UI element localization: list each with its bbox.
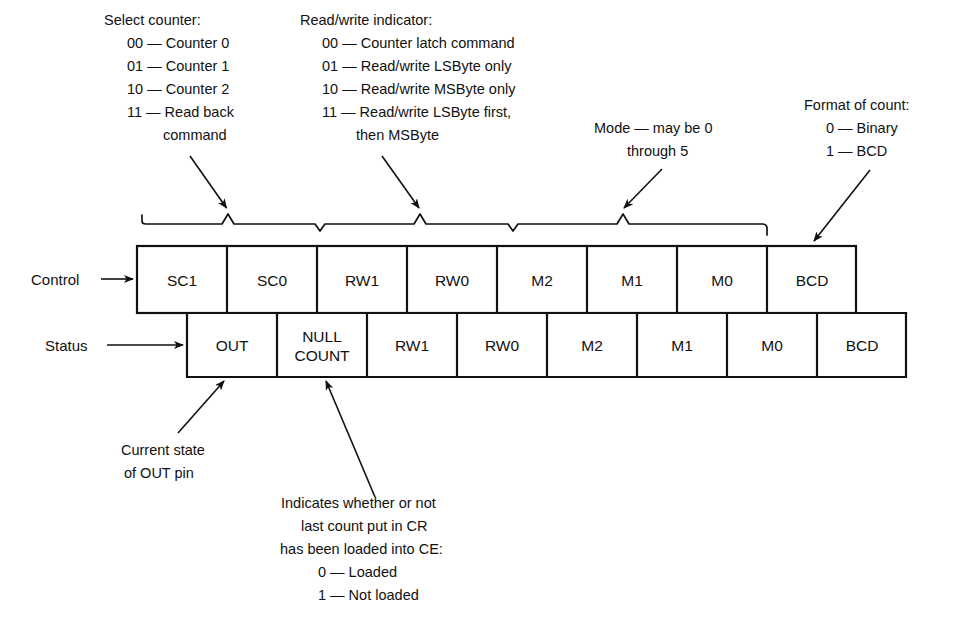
status-cell-out: OUT: [216, 337, 249, 354]
status-row-label-group: Status: [45, 337, 183, 354]
read-write-line-4: then MSByte: [356, 127, 439, 143]
status-row-label: Status: [45, 337, 88, 354]
format-of-count-heading: Format of count:: [804, 97, 910, 113]
select-counter-heading: Select counter:: [104, 12, 201, 28]
annotation-mode: Mode — may be 0 through 5: [594, 120, 712, 159]
select-counter-line-3: 11 — Read back: [127, 104, 235, 120]
out-pin-line-0: Current state: [121, 442, 205, 458]
control-cell-bcd: BCD: [796, 272, 829, 289]
read-write-line-0: 00 — Counter latch command: [322, 35, 515, 51]
status-cell-null: NULL: [302, 328, 342, 345]
status-cell-m0: M0: [761, 337, 783, 354]
status-cell-m2: M2: [581, 337, 603, 354]
out-pin-line-1: of OUT pin: [124, 465, 194, 481]
status-cell-count: COUNT: [294, 347, 350, 364]
status-register-row: OUT NULL COUNT RW1 RW0 M2 M1 M0 BCD: [187, 313, 906, 377]
read-write-line-3: 11 — Read/write LSByte first,: [322, 104, 511, 120]
status-cell-bcd: BCD: [846, 337, 879, 354]
annotation-out-pin: Current state of OUT pin: [121, 381, 224, 481]
field-grouping-brace: [142, 214, 767, 235]
control-row-label-group: Control: [31, 271, 133, 288]
control-cell-rw0: RW0: [435, 272, 470, 289]
select-counter-line-1: 01 — Counter 1: [127, 58, 229, 74]
control-cell-m0: M0: [711, 272, 733, 289]
annotation-format-of-count: Format of count: 0 — Binary 1 — BCD: [804, 97, 910, 159]
null-count-line-2: has been loaded into CE:: [280, 541, 443, 557]
null-count-line-1: last count put in CR: [301, 518, 428, 534]
null-count-line-0: Indicates whether or not: [281, 495, 436, 511]
read-write-line-2: 10 — Read/write MSByte only: [322, 81, 516, 97]
null-count-line-3: 0 — Loaded: [318, 564, 397, 580]
read-write-line-1: 01 — Read/write LSByte only: [322, 58, 512, 74]
control-cell-rw1: RW1: [345, 272, 379, 289]
format-of-count-line-1: 1 — BCD: [826, 143, 887, 159]
select-counter-line-0: 00 — Counter 0: [127, 35, 229, 51]
control-register-row: SC1 SC0 RW1 RW0 M2 M1 M0 BCD: [137, 246, 856, 313]
null-count-line-4: 1 — Not loaded: [318, 587, 419, 603]
select-counter-line-2: 10 — Counter 2: [127, 81, 229, 97]
leader-format-of-count: [814, 170, 870, 241]
control-cell-m1: M1: [621, 272, 643, 289]
leader-select-counter: [190, 156, 227, 208]
annotation-null-count: Indicates whether or not last count put …: [280, 381, 443, 603]
leader-mode: [624, 169, 662, 208]
select-counter-line-4: command: [163, 127, 227, 143]
register-format-diagram: Select counter: 00 — Counter 0 01 — Coun…: [0, 0, 968, 617]
mode-line-1: through 5: [627, 143, 688, 159]
control-row-label: Control: [31, 271, 79, 288]
status-cell-rw0: RW0: [485, 337, 520, 354]
annotation-read-write-indicator: Read/write indicator: 00 — Counter latch…: [300, 12, 516, 143]
annotation-select-counter: Select counter: 00 — Counter 0 01 — Coun…: [104, 12, 235, 143]
status-cell-rw1: RW1: [395, 337, 429, 354]
control-cell-sc0: SC0: [257, 272, 288, 289]
format-of-count-line-0: 0 — Binary: [826, 120, 898, 136]
control-cell-sc1: SC1: [167, 272, 197, 289]
control-cell-m2: M2: [531, 272, 553, 289]
read-write-heading: Read/write indicator:: [300, 12, 432, 28]
leader-read-write: [382, 156, 419, 208]
mode-line-0: Mode — may be 0: [594, 120, 712, 136]
status-cell-m1: M1: [671, 337, 693, 354]
